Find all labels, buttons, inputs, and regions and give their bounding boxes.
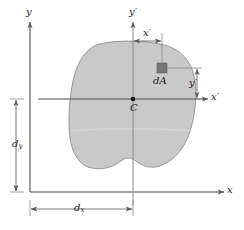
dy-base: d (12, 138, 18, 149)
centroid-area-figure: y x y′ x′ C dA x′ y′ dy dx (0, 0, 244, 230)
area-element-label: dA (153, 76, 167, 86)
area-element-square (157, 63, 167, 73)
y-prime-axis-label: y′ (129, 7, 137, 17)
dx-base: d (74, 202, 80, 213)
y-prime-dimension-label: y′ (189, 78, 197, 88)
dx-subscript: x (81, 206, 85, 214)
figure-canvas (0, 0, 244, 230)
dy-dimension-label: dy (12, 139, 23, 150)
centroid-point (131, 97, 136, 102)
x-prime-dimension-label: x′ (143, 28, 151, 38)
dx-dimension-label: dx (74, 203, 85, 214)
dy-subscript: y (19, 142, 23, 150)
y-axis-label: y (26, 7, 32, 17)
x-prime-axis-label: x′ (211, 92, 219, 102)
x-axis-label: x (227, 185, 233, 195)
centroid-label: C (130, 103, 138, 113)
